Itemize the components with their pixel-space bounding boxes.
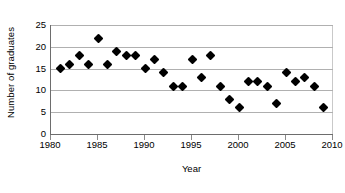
x-tick-label-2010: 2010: [321, 140, 342, 150]
data-point: [131, 51, 141, 61]
gridline-y-20: [51, 47, 333, 48]
data-point: [272, 99, 282, 109]
x-tick-label-1995: 1995: [180, 140, 201, 150]
data-point: [149, 55, 159, 65]
data-point: [196, 72, 206, 82]
x-tick-label-2000: 2000: [227, 140, 248, 150]
x-axis-title: Year: [50, 163, 333, 174]
plot-right-edge: [332, 25, 333, 134]
y-axis-title-text: Number of graduates: [6, 27, 17, 118]
data-point: [140, 64, 150, 74]
gridline-y-5: [51, 112, 333, 113]
gridline-y-10: [51, 90, 333, 91]
gridline-y-15: [51, 69, 333, 70]
data-point: [55, 64, 65, 74]
y-tick-label-20: 20: [22, 42, 46, 52]
x-tick-label-1990: 1990: [133, 140, 154, 150]
plot-area: [50, 25, 333, 135]
gridline-y-25: [51, 25, 333, 26]
y-axis-tick-labels: 0510152025: [22, 0, 46, 193]
data-point: [74, 51, 84, 61]
data-point: [253, 77, 263, 87]
data-point: [206, 51, 216, 61]
y-tick-label-10: 10: [22, 85, 46, 95]
x-tick-label-1980: 1980: [39, 140, 60, 150]
y-axis-title: Number of graduates: [0, 0, 22, 145]
y-tick-label-25: 25: [22, 20, 46, 30]
y-tick-label-5: 5: [22, 107, 46, 117]
data-point: [187, 55, 197, 65]
x-axis-tick-labels: 1980198519901995200020052010: [50, 140, 333, 154]
data-point: [290, 77, 300, 87]
x-tick-label-1985: 1985: [86, 140, 107, 150]
x-tick-label-2005: 2005: [274, 140, 295, 150]
scatter-chart: Number of graduates 0510152025 198019851…: [0, 0, 345, 193]
y-tick-label-0: 0: [22, 129, 46, 139]
data-point: [300, 72, 310, 82]
y-tick-label-15: 15: [22, 64, 46, 74]
data-point: [93, 33, 103, 43]
data-point: [225, 94, 235, 104]
